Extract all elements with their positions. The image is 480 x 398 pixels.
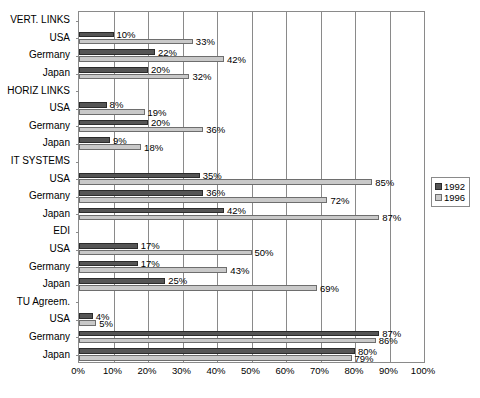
bar-1996 bbox=[79, 56, 224, 62]
grouped-horizontal-bar-chart: VERT. LINKSUSAGermanyJapanHORIZ LINKSUSA… bbox=[0, 0, 480, 398]
group-spacer-row bbox=[79, 12, 424, 30]
group-label-horiz-links: HORIZ LINKS bbox=[0, 81, 74, 99]
legend-label: 1992 bbox=[444, 181, 465, 192]
value-label-1992: 20% bbox=[151, 65, 170, 75]
category-label-usa: USA bbox=[0, 169, 74, 187]
value-label-1996: 85% bbox=[375, 178, 394, 188]
x-tick-label: 50% bbox=[241, 365, 260, 376]
legend-label: 1996 bbox=[444, 192, 465, 203]
bar-1992 bbox=[79, 313, 93, 319]
group-label-it-systems: IT SYSTEMS bbox=[0, 152, 74, 170]
axis-tick bbox=[76, 232, 79, 233]
category-label-germany: Germany bbox=[0, 328, 74, 346]
group-spacer-row bbox=[79, 223, 424, 241]
legend-swatch-icon bbox=[435, 183, 442, 190]
bar-row: 36%72% bbox=[79, 188, 424, 206]
value-label-1996: 42% bbox=[227, 55, 246, 65]
group-label-tu-agreem: TU Agreem. bbox=[0, 293, 74, 311]
x-tick-label: 100% bbox=[411, 365, 435, 376]
group-spacer-row bbox=[79, 153, 424, 171]
category-label-japan: Japan bbox=[0, 345, 74, 363]
value-label-1996: 87% bbox=[382, 213, 401, 223]
value-label-1996: 36% bbox=[206, 125, 225, 135]
legend-swatch-icon bbox=[435, 194, 442, 201]
bar-rows: 10%33%22%42%20%32%8%19%20%36%9%18%35%85%… bbox=[79, 12, 424, 362]
value-label-1992: 35% bbox=[203, 171, 222, 181]
bar-1992 bbox=[79, 331, 379, 337]
bar-1992 bbox=[79, 49, 155, 55]
bar-1992 bbox=[79, 120, 148, 126]
value-label-1996: 86% bbox=[379, 336, 398, 346]
value-label-1992: 8% bbox=[110, 100, 124, 110]
bar-1996 bbox=[79, 197, 327, 203]
bar-row: 9%18% bbox=[79, 135, 424, 153]
x-tick-label: 60% bbox=[275, 365, 294, 376]
axis-tick bbox=[76, 302, 79, 303]
bar-1992 bbox=[79, 261, 138, 267]
bar-1992 bbox=[79, 208, 224, 214]
bar-1992 bbox=[79, 102, 107, 108]
x-axis-tick-labels: 0%10%20%30%40%50%60%70%80%90%100% bbox=[78, 365, 425, 381]
bar-1996 bbox=[79, 285, 317, 291]
category-label-japan: Japan bbox=[0, 64, 74, 82]
value-label-1992: 9% bbox=[113, 136, 127, 146]
value-label-1996: 32% bbox=[192, 72, 211, 82]
category-label-germany: Germany bbox=[0, 46, 74, 64]
bar-row: 4%5% bbox=[79, 311, 424, 329]
legend-item-1992[interactable]: 1992 bbox=[435, 181, 465, 192]
bar-row: 17%50% bbox=[79, 241, 424, 259]
legend-item-1996[interactable]: 1996 bbox=[435, 192, 465, 203]
value-label-1996: 43% bbox=[230, 266, 249, 276]
plot-area: 10%33%22%42%20%32%8%19%20%36%9%18%35%85%… bbox=[78, 11, 425, 363]
bar-row: 35%85% bbox=[79, 170, 424, 188]
value-label-1992: 42% bbox=[227, 206, 246, 216]
value-label-1992: 22% bbox=[158, 48, 177, 58]
x-tick-label: 20% bbox=[137, 365, 156, 376]
value-label-1996: 33% bbox=[196, 37, 215, 47]
bar-row: 42%87% bbox=[79, 206, 424, 224]
value-label-1992: 25% bbox=[168, 276, 187, 286]
bar-row: 80%79% bbox=[79, 346, 424, 364]
x-tick-label: 80% bbox=[344, 365, 363, 376]
category-label-germany: Germany bbox=[0, 117, 74, 135]
bar-1992 bbox=[79, 137, 110, 143]
value-label-1996: 50% bbox=[255, 248, 274, 258]
value-label-1996: 19% bbox=[148, 108, 167, 118]
bar-1996 bbox=[79, 144, 141, 150]
x-tick-label: 90% bbox=[379, 365, 398, 376]
x-tick-label: 0% bbox=[71, 365, 85, 376]
category-label-germany: Germany bbox=[0, 187, 74, 205]
category-label-japan: Japan bbox=[0, 275, 74, 293]
group-spacer-row bbox=[79, 82, 424, 100]
bar-row: 22%42% bbox=[79, 47, 424, 65]
category-axis-labels: VERT. LINKSUSAGermanyJapanHORIZ LINKSUSA… bbox=[0, 11, 74, 363]
value-label-1996: 5% bbox=[99, 319, 113, 329]
x-tick-label: 30% bbox=[172, 365, 191, 376]
bar-1992 bbox=[79, 32, 114, 38]
bar-1992 bbox=[79, 190, 203, 196]
bar-1996 bbox=[79, 74, 189, 80]
category-label-usa: USA bbox=[0, 29, 74, 47]
category-label-germany: Germany bbox=[0, 257, 74, 275]
bar-row: 20%36% bbox=[79, 118, 424, 136]
axis-tick bbox=[76, 91, 79, 92]
axis-tick bbox=[76, 162, 79, 163]
value-label-1992: 20% bbox=[151, 118, 170, 128]
bar-row: 25%69% bbox=[79, 276, 424, 294]
value-label-1992: 10% bbox=[117, 30, 136, 40]
group-label-vert-links: VERT. LINKS bbox=[0, 11, 74, 29]
bar-1996 bbox=[79, 320, 96, 326]
value-label-1992: 36% bbox=[206, 188, 225, 198]
value-label-1992: 17% bbox=[141, 241, 160, 251]
value-label-1996: 18% bbox=[144, 143, 163, 153]
bar-1996 bbox=[79, 127, 203, 133]
group-label-edi: EDI bbox=[0, 222, 74, 240]
x-tick-label: 70% bbox=[310, 365, 329, 376]
category-label-usa: USA bbox=[0, 310, 74, 328]
bar-row: 87%86% bbox=[79, 329, 424, 347]
bar-1996 bbox=[79, 179, 372, 185]
bar-1992 bbox=[79, 278, 165, 284]
category-label-usa: USA bbox=[0, 99, 74, 117]
bar-1996 bbox=[79, 338, 376, 344]
x-tick-label: 10% bbox=[103, 365, 122, 376]
